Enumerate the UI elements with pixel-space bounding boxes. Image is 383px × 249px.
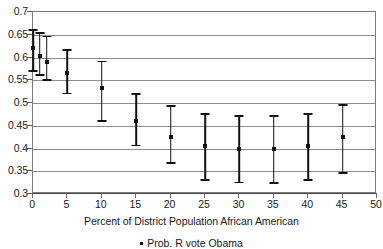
- data-point-marker: [169, 135, 173, 139]
- error-bar-cap: [63, 49, 72, 51]
- error-bar-cap: [166, 105, 175, 107]
- gridline: [33, 58, 375, 59]
- y-axis-tick-label: 0.55: [8, 74, 28, 85]
- error-bar-cap: [132, 93, 141, 95]
- data-point-marker: [341, 135, 345, 139]
- error-bar-cap: [269, 115, 278, 117]
- error-bar: [46, 36, 48, 80]
- error-bar-cap: [304, 179, 313, 181]
- error-bar-cap: [166, 162, 175, 164]
- data-point-marker: [203, 144, 207, 148]
- legend-label: Prob. R vote Obama: [147, 238, 243, 249]
- data-point-marker: [237, 147, 241, 151]
- x-axis-tick-label: 10: [95, 199, 106, 210]
- x-axis-tick-label: 35: [267, 199, 278, 210]
- x-axis-tick-label: 25: [198, 199, 209, 210]
- error-bar-cap: [42, 36, 51, 38]
- error-bar-cap: [63, 93, 72, 95]
- y-axis-tick-label: 0.5: [14, 97, 28, 108]
- x-axis-tick-label: 45: [336, 199, 347, 210]
- data-point-marker: [100, 86, 104, 90]
- error-bar-cap: [304, 113, 313, 115]
- x-axis-title: Percent of District Population African A…: [0, 216, 383, 228]
- x-axis-tick-label: 30: [233, 199, 244, 210]
- error-bar-cap: [97, 120, 106, 122]
- error-bar-cap: [338, 172, 347, 174]
- data-point-marker: [134, 119, 138, 123]
- error-bar-cap: [42, 79, 51, 81]
- error-bar-cap: [35, 74, 44, 76]
- error-bar-cap: [132, 145, 141, 147]
- x-axis-tick-label: 0: [29, 199, 35, 210]
- x-axis-tick-label: 40: [301, 199, 312, 210]
- y-axis-tick-label: 0.6: [14, 51, 28, 62]
- data-point-marker: [38, 54, 42, 58]
- gridline: [33, 80, 375, 81]
- x-axis-tick-label: 5: [64, 199, 70, 210]
- data-point-marker: [65, 71, 69, 75]
- error-bar-cap: [201, 113, 210, 115]
- y-axis-tick-label: 0.7: [14, 6, 28, 17]
- y-axis-tick-label: 0.65: [8, 29, 28, 40]
- x-axis-tick-label: 15: [129, 199, 140, 210]
- y-axis-tick-label: 0.45: [8, 120, 28, 131]
- data-point-marker: [31, 46, 35, 50]
- data-point-marker: [45, 60, 49, 64]
- error-bar-cap: [235, 182, 244, 184]
- error-bar-cap: [201, 179, 210, 181]
- error-bar-cap: [97, 61, 106, 63]
- data-point-marker: [272, 147, 276, 151]
- gridline: [33, 103, 375, 104]
- chart-legend: Prob. R vote Obama: [0, 238, 383, 249]
- error-bar-cap: [29, 70, 38, 72]
- legend-marker-icon: [140, 242, 143, 245]
- gridline: [33, 35, 375, 36]
- y-axis-tick-label: 0.35: [8, 165, 28, 176]
- y-axis-tick-label: 0.4: [14, 142, 28, 153]
- y-axis-tick-label: 0.3: [14, 188, 28, 199]
- chart-figure: 0.30.350.40.450.50.550.60.650.7 Percent …: [0, 0, 383, 249]
- error-bar-cap: [338, 104, 347, 106]
- error-bar-cap: [269, 182, 278, 184]
- x-axis-tick-label: 50: [370, 199, 381, 210]
- x-axis-tick-label: 20: [164, 199, 175, 210]
- y-axis: 0.30.350.40.450.50.550.60.650.7: [0, 0, 32, 194]
- data-point-marker: [306, 144, 310, 148]
- error-bar: [170, 105, 172, 162]
- plot-area: [32, 11, 376, 193]
- error-bar-cap: [35, 32, 44, 34]
- error-bar-cap: [235, 115, 244, 117]
- error-bar-cap: [29, 29, 38, 31]
- error-bar: [101, 61, 103, 121]
